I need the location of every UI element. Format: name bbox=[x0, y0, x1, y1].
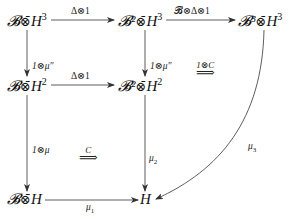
node-op: ⊗̄ bbox=[20, 14, 31, 29]
node-B2-H2: 𝓑²⊗̄H2 bbox=[118, 77, 162, 94]
label-sub: 1 bbox=[91, 207, 95, 215]
node-right: H bbox=[31, 78, 42, 94]
label-delta-tensor-1-top: Δ⊗1 bbox=[71, 7, 90, 17]
label-mu2: μ2 bbox=[149, 154, 157, 166]
label-1-mu-dblprime-right: 1⊗μ″ bbox=[150, 62, 171, 72]
node-base: 𝓑 bbox=[7, 78, 20, 94]
nat-trans-1-tensor-C: 1⊗C ⟹ bbox=[196, 61, 215, 79]
node-B2-H3: 𝓑²⊗̄H3 bbox=[118, 12, 162, 29]
node-exp: 2 bbox=[157, 76, 162, 87]
node-op: ⊗̄ bbox=[20, 79, 31, 94]
node-op: ⊗̄ bbox=[256, 14, 267, 29]
node-exp: 2 bbox=[42, 76, 47, 87]
node-base: 𝓑 bbox=[7, 191, 20, 207]
node-B-H: 𝓑⊗̄H bbox=[7, 192, 42, 207]
node-right: H bbox=[146, 13, 157, 29]
node-op: ⊗̄ bbox=[136, 79, 147, 94]
node-base: 𝓑² bbox=[118, 78, 136, 94]
node-base: 𝓑 bbox=[7, 13, 20, 29]
node-exp: 3 bbox=[157, 11, 162, 22]
label-delta-tensor-1-mid: Δ⊗1 bbox=[71, 72, 90, 82]
node-right: H bbox=[31, 191, 42, 207]
node-right: H bbox=[146, 78, 157, 94]
node-right: H bbox=[31, 13, 42, 29]
diagram-arrows bbox=[0, 0, 290, 219]
label-sub: 2 bbox=[154, 158, 158, 166]
node-op: ⊗̄ bbox=[136, 14, 147, 29]
node-exp: 3 bbox=[42, 11, 47, 22]
node-B3-H3: 𝓑³⊗̄H3 bbox=[238, 12, 282, 29]
label-B-delta-1: 𝓑⊗Δ⊗1 bbox=[174, 7, 210, 17]
node-right: H bbox=[140, 191, 151, 207]
arrow-curve-mu3 bbox=[156, 30, 264, 199]
node-base: 𝓑³ bbox=[238, 13, 256, 29]
node-base: 𝓑² bbox=[118, 13, 136, 29]
double-arrow-icon: ⟹ bbox=[196, 66, 215, 79]
double-arrow-icon: ⟹ bbox=[79, 151, 98, 164]
label-mu1: μ1 bbox=[86, 203, 94, 215]
node-right: H bbox=[266, 13, 277, 29]
node-H: H bbox=[140, 192, 151, 207]
label-1-mu-dblprime-left: 1⊗μ″ bbox=[32, 62, 53, 72]
label-sub: 3 bbox=[253, 146, 257, 154]
label-mu3: μ3 bbox=[248, 142, 256, 154]
label-1-mu: 1⊗μ bbox=[32, 146, 49, 156]
node-op: ⊗̄ bbox=[20, 192, 31, 207]
node-B-H2: 𝓑⊗̄H2 bbox=[7, 77, 47, 94]
node-exp: 3 bbox=[277, 11, 282, 22]
node-B-H3: 𝓑⊗̄H3 bbox=[7, 12, 47, 29]
nat-trans-C: C ⟹ bbox=[79, 146, 98, 164]
